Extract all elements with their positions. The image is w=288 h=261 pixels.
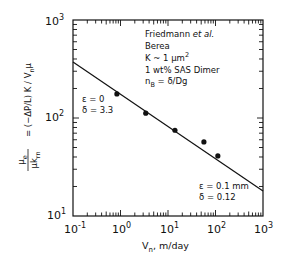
annotation-delta-0.12: δ = 0.12	[199, 192, 236, 202]
data-point	[215, 153, 220, 158]
svg-text:μe: μe	[16, 155, 29, 164]
y-tick-label-100: 102	[45, 109, 64, 124]
x-tick-label-100: 102	[207, 221, 226, 236]
y-tick-label-10: 101	[47, 207, 66, 222]
x-tick-label-1: 100	[112, 221, 131, 236]
annotation-nb: nB = δ/Dg	[145, 76, 187, 89]
x-tick-label-0.1: 10-1	[64, 221, 86, 236]
data-point	[114, 91, 119, 96]
legend-annotations: Friedmann et al. Berea K ~ 1 μm2 1 wt% S…	[82, 29, 249, 202]
annotation-delta-3.3: δ = 3.3	[82, 105, 113, 115]
annotation-eps-0: ε = 0	[82, 94, 105, 104]
data-point	[201, 139, 206, 144]
data-point	[172, 128, 177, 133]
x-tick-label-10: 101	[160, 221, 179, 236]
annotation-rock: Berea	[145, 41, 170, 51]
chart: 103 102 101 10-1 100 101 102 103 Vn, m/d…	[0, 0, 288, 261]
annotation-surfactant: 1 wt% SAS Dimer	[145, 65, 220, 75]
data-point	[143, 111, 148, 116]
annotation-eps-0.1mm: ε = 0.1 mm	[199, 181, 249, 191]
svg-text:= (−ΔP/L) K / Vnμ: = (−ΔP/L) K / Vnμ	[23, 62, 36, 137]
svg-text:μkrn: μkrn	[29, 151, 42, 168]
x-axis-label: Vn, m/day	[142, 240, 189, 254]
y-tick-label-1000: 103	[45, 13, 64, 28]
annotation-author: Friedmann et al.	[145, 29, 214, 39]
x-tick-label-1000: 103	[254, 221, 273, 236]
y-axis-label: μe μkrn = (−ΔP/L) K / Vnμ	[16, 62, 42, 171]
annotation-permeability: K ~ 1 μm2	[145, 51, 189, 63]
